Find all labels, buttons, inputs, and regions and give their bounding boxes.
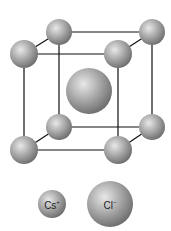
cs-ion-back-bottom-right	[139, 114, 165, 140]
cs-ion-back-top-right	[139, 19, 165, 45]
cs-ion-back-top-left	[46, 19, 72, 45]
legend-cs-label: Cs+	[44, 199, 60, 210]
cs-ion-front-top-left	[10, 40, 38, 68]
cs-ion-front-bottom-left	[10, 136, 38, 164]
cs-ion-front-top-right	[104, 40, 132, 68]
cs-ion-back-bottom-left	[46, 114, 72, 140]
cl-ion-center	[66, 68, 112, 114]
legend-cl-label: Cl−	[104, 199, 117, 210]
cs-ion-front-bottom-right	[104, 136, 132, 164]
cscl-unit-cell-diagram	[0, 0, 171, 231]
